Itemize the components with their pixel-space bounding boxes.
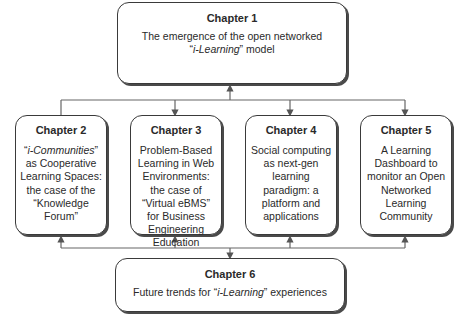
chapter-5-title: Chapter 5	[361, 124, 451, 136]
chapter-2-text: “i-Communities” as Cooperative Learning …	[20, 144, 102, 223]
chapter-2-text-post: as Cooperative Learning Spaces: the case…	[20, 157, 102, 222]
chapter-4-box: Chapter 4 Social computing as next-gen l…	[245, 115, 337, 235]
chapter-5-text: A Learning Dashboard to monitor an Open …	[365, 144, 447, 223]
quote: ”	[95, 144, 99, 156]
chapter-4-text: Social computing as next-gen learning pa…	[250, 144, 332, 223]
chapter-1-text-pre: The emergence of the open networked	[142, 30, 322, 42]
chapter-2-italic: i-Communities	[27, 144, 94, 156]
chapter-3-title: Chapter 3	[131, 124, 221, 136]
chapter-1-text: The emergence of the open networked “i-L…	[122, 30, 342, 56]
chapter-6-title: Chapter 6	[116, 268, 344, 280]
chapter-2-box: Chapter 2 “i-Communities” as Cooperative…	[15, 115, 107, 235]
chapter-1-box: Chapter 1 The emergence of the open netw…	[117, 2, 347, 84]
chapter-6-italic: i-Learning	[217, 286, 264, 298]
chapter-6-text-post: experiences	[267, 286, 327, 298]
chapter-1-title: Chapter 1	[118, 12, 346, 24]
chapter-6-text: Future trends for “i-Learning” experienc…	[120, 286, 340, 299]
chapter-6-text-pre: Future trends for	[133, 286, 214, 298]
chapter-4-title: Chapter 4	[246, 124, 336, 136]
chapter-3-text: Problem-Based Learning in Web Environmen…	[135, 144, 217, 250]
chapter-2-title: Chapter 2	[16, 124, 106, 136]
chapter-5-box: Chapter 5 A Learning Dashboard to monito…	[360, 115, 452, 235]
chapter-1-text-post: model	[243, 43, 275, 55]
chapter-1-italic: i-Learning	[193, 43, 240, 55]
chapter-6-box: Chapter 6 Future trends for “i-Learning”…	[115, 258, 345, 312]
chapter-3-box: Chapter 3 Problem-Based Learning in Web …	[130, 115, 222, 235]
